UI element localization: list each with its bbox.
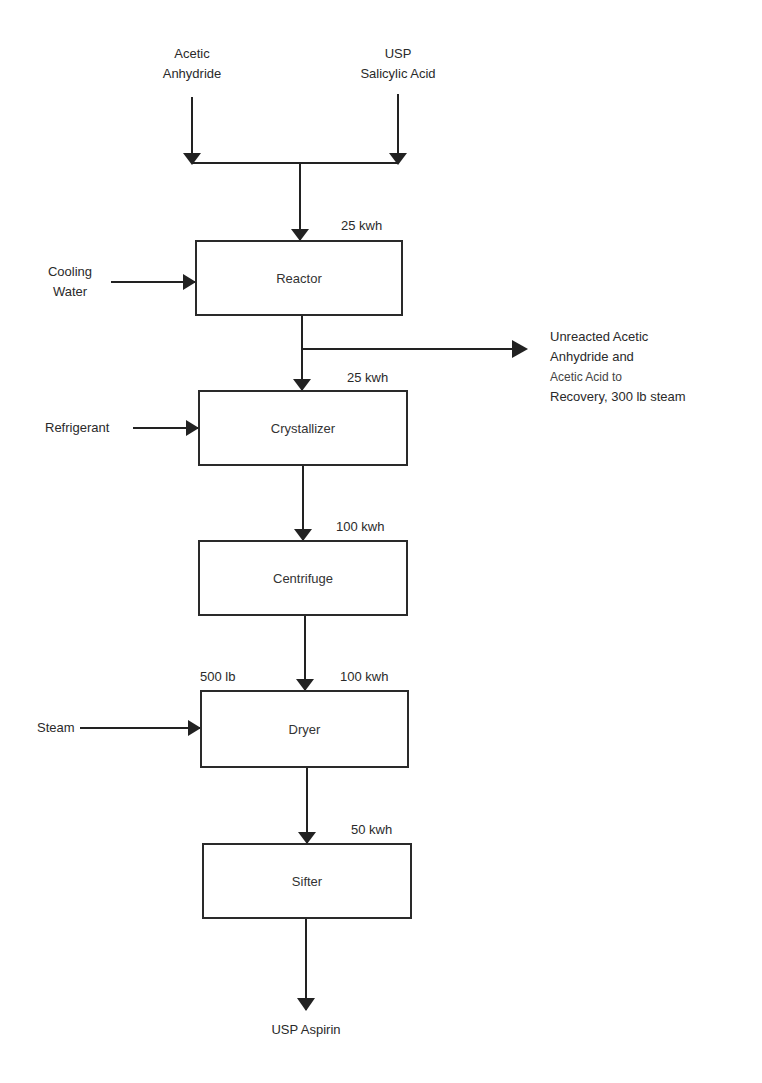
input-label-line: Salicylic Acid — [338, 64, 458, 84]
input-steam: Steam — [37, 718, 75, 738]
input-refrigerant: Refrigerant — [45, 418, 109, 438]
reactor-energy: 25 kwh — [341, 216, 382, 236]
unit-sifter: Sifter — [202, 843, 412, 919]
unit-reactor: Reactor — [195, 240, 403, 316]
side-output-line: Anhydride and — [550, 347, 686, 367]
product-usp-aspirin: USP Aspirin — [246, 1020, 366, 1040]
input-label-line: Water — [38, 282, 102, 302]
side-output-line: Acetic Acid to — [550, 367, 686, 387]
sifter-energy: 50 kwh — [351, 820, 392, 840]
unit-label: Centrifuge — [273, 571, 333, 586]
dryer-steam-amount: 500 lb — [200, 667, 235, 687]
input-label-line: Anhydride — [142, 64, 242, 84]
unit-centrifuge: Centrifuge — [198, 540, 408, 616]
dryer-energy: 100 kwh — [340, 667, 388, 687]
input-acetic-anhydride: Acetic Anhydride — [142, 44, 242, 84]
input-label-line: Cooling — [38, 262, 102, 282]
input-cooling-water: Cooling Water — [38, 262, 102, 302]
side-output-recovery: Unreacted Acetic Anhydride and Acetic Ac… — [550, 327, 686, 407]
unit-label: Sifter — [292, 874, 322, 889]
centrifuge-energy: 100 kwh — [336, 517, 384, 537]
side-output-line: Recovery, 300 lb steam — [550, 387, 686, 407]
crystallizer-energy: 25 kwh — [347, 368, 388, 388]
side-output-line: Unreacted Acetic — [550, 327, 686, 347]
input-label-line: USP — [338, 44, 458, 64]
input-salicylic-acid: USP Salicylic Acid — [338, 44, 458, 84]
input-label-line: Acetic — [142, 44, 242, 64]
unit-label: Reactor — [276, 271, 322, 286]
unit-crystallizer: Crystallizer — [198, 390, 408, 466]
unit-dryer: Dryer — [200, 690, 409, 768]
unit-label: Crystallizer — [271, 421, 335, 436]
unit-label: Dryer — [289, 722, 321, 737]
